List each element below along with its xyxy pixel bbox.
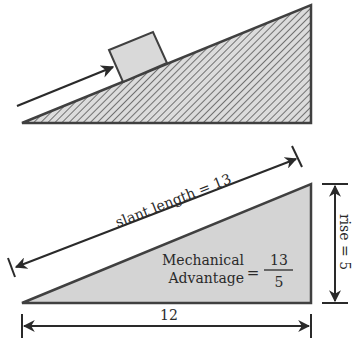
slant-label: slant length = 13 (113, 170, 233, 230)
ma-denominator: 5 (275, 274, 284, 290)
slant-tick-left (8, 258, 15, 277)
run-label: 12 (160, 307, 178, 323)
figure-canvas: slant length = 13 rise = 5 12 Mechanical… (0, 0, 354, 342)
ma-equals: = (247, 264, 260, 282)
ma-label-line1: Mechanical (162, 252, 245, 268)
slant-tick-right (292, 146, 302, 167)
ma-numerator: 13 (270, 252, 288, 268)
ma-label-line2: Advantage (167, 270, 244, 286)
rise-label: rise = 5 (337, 214, 353, 270)
inclined-plane-figure: slant length = 13 rise = 5 12 Mechanical… (0, 0, 354, 342)
